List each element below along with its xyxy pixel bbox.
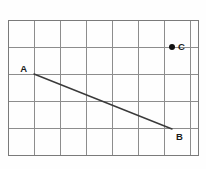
point-label-a: A — [20, 63, 27, 74]
point-label-c: C — [178, 41, 185, 52]
point-label-b: B — [176, 131, 183, 142]
grid-horizontal-lines — [8, 21, 198, 156]
points-layer: ABC — [20, 41, 185, 142]
grid-outer-border — [9, 21, 199, 156]
figure-svg: ABC — [0, 0, 206, 169]
grid-border — [9, 21, 199, 156]
figure-canvas: ABC — [0, 0, 206, 169]
point-dot-c — [169, 44, 175, 50]
grid-vertical-lines — [9, 20, 199, 155]
